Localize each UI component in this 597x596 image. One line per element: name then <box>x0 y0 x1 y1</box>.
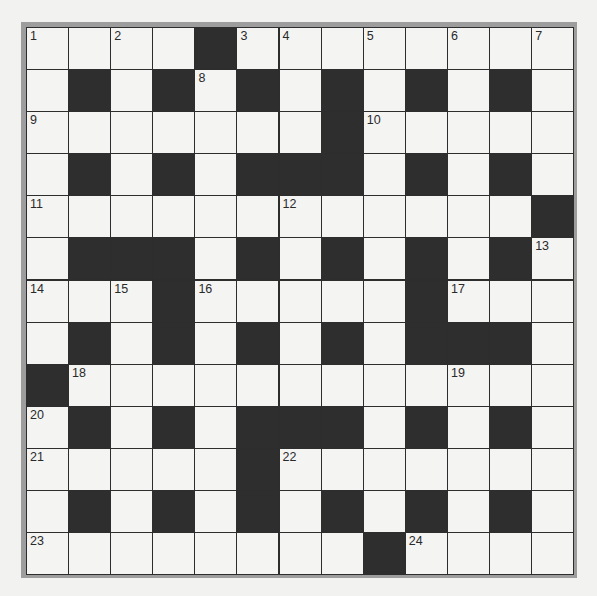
grid-cell-r5-c0[interactable] <box>27 238 68 279</box>
grid-cell-r8-c10[interactable]: 19 <box>448 365 489 406</box>
grid-cell-r10-c10[interactable] <box>448 449 489 490</box>
grid-cell-r10-c6[interactable]: 22 <box>280 449 321 490</box>
grid-cell-r0-c7[interactable] <box>322 28 363 69</box>
grid-cell-r9-c12[interactable] <box>532 407 573 448</box>
grid-cell-r11-c12[interactable] <box>532 491 573 532</box>
grid-cell-r0-c2[interactable]: 2 <box>111 28 152 69</box>
grid-cell-r1-c8[interactable] <box>364 70 405 111</box>
grid-cell-r5-c8[interactable] <box>364 238 405 279</box>
grid-cell-r8-c2[interactable] <box>111 365 152 406</box>
grid-cell-r9-c0[interactable]: 20 <box>27 407 68 448</box>
grid-cell-r9-c8[interactable] <box>364 407 405 448</box>
grid-cell-r0-c8[interactable]: 5 <box>364 28 405 69</box>
grid-cell-r9-c4[interactable] <box>195 407 236 448</box>
grid-cell-r4-c10[interactable] <box>448 196 489 237</box>
grid-cell-r4-c4[interactable] <box>195 196 236 237</box>
grid-cell-r5-c6[interactable] <box>280 238 321 279</box>
grid-cell-r0-c9[interactable] <box>406 28 447 69</box>
grid-cell-r5-c12[interactable]: 13 <box>532 238 573 279</box>
grid-cell-r8-c5[interactable] <box>237 365 278 406</box>
grid-cell-r5-c4[interactable] <box>195 238 236 279</box>
grid-cell-r0-c3[interactable] <box>153 28 194 69</box>
grid-cell-r7-c4[interactable] <box>195 323 236 364</box>
grid-cell-r12-c12[interactable] <box>532 533 573 574</box>
grid-cell-r11-c2[interactable] <box>111 491 152 532</box>
grid-cell-r1-c12[interactable] <box>532 70 573 111</box>
grid-cell-r8-c11[interactable] <box>490 365 531 406</box>
grid-cell-r10-c2[interactable] <box>111 449 152 490</box>
grid-cell-r3-c8[interactable] <box>364 154 405 195</box>
grid-cell-r1-c6[interactable] <box>280 70 321 111</box>
grid-cell-r8-c7[interactable] <box>322 365 363 406</box>
grid-cell-r6-c4[interactable]: 16 <box>195 281 236 322</box>
grid-cell-r2-c2[interactable] <box>111 112 152 153</box>
grid-cell-r10-c4[interactable] <box>195 449 236 490</box>
grid-cell-r2-c10[interactable] <box>448 112 489 153</box>
grid-cell-r6-c12[interactable] <box>532 281 573 322</box>
grid-cell-r4-c11[interactable] <box>490 196 531 237</box>
grid-cell-r8-c6[interactable] <box>280 365 321 406</box>
grid-cell-r10-c7[interactable] <box>322 449 363 490</box>
grid-cell-r10-c11[interactable] <box>490 449 531 490</box>
grid-cell-r6-c5[interactable] <box>237 281 278 322</box>
grid-cell-r12-c7[interactable] <box>322 533 363 574</box>
grid-cell-r0-c6[interactable]: 4 <box>280 28 321 69</box>
grid-cell-r11-c4[interactable] <box>195 491 236 532</box>
grid-cell-r11-c0[interactable] <box>27 491 68 532</box>
grid-cell-r11-c6[interactable] <box>280 491 321 532</box>
grid-cell-r10-c9[interactable] <box>406 449 447 490</box>
grid-cell-r2-c12[interactable] <box>532 112 573 153</box>
grid-cell-r4-c7[interactable] <box>322 196 363 237</box>
grid-cell-r6-c2[interactable]: 15 <box>111 281 152 322</box>
grid-cell-r11-c8[interactable] <box>364 491 405 532</box>
grid-cell-r1-c10[interactable] <box>448 70 489 111</box>
grid-cell-r7-c8[interactable] <box>364 323 405 364</box>
grid-cell-r2-c3[interactable] <box>153 112 194 153</box>
grid-cell-r12-c4[interactable] <box>195 533 236 574</box>
grid-cell-r6-c8[interactable] <box>364 281 405 322</box>
grid-cell-r0-c0[interactable]: 1 <box>27 28 68 69</box>
grid-cell-r4-c0[interactable]: 11 <box>27 196 68 237</box>
grid-cell-r12-c2[interactable] <box>111 533 152 574</box>
grid-cell-r8-c8[interactable] <box>364 365 405 406</box>
grid-cell-r10-c0[interactable]: 21 <box>27 449 68 490</box>
grid-cell-r1-c4[interactable]: 8 <box>195 70 236 111</box>
grid-cell-r8-c9[interactable] <box>406 365 447 406</box>
grid-cell-r4-c5[interactable] <box>237 196 278 237</box>
grid-cell-r8-c4[interactable] <box>195 365 236 406</box>
grid-cell-r0-c5[interactable]: 3 <box>237 28 278 69</box>
grid-cell-r4-c6[interactable]: 12 <box>280 196 321 237</box>
grid-cell-r11-c10[interactable] <box>448 491 489 532</box>
grid-cell-r4-c9[interactable] <box>406 196 447 237</box>
grid-cell-r12-c5[interactable] <box>237 533 278 574</box>
grid-cell-r9-c2[interactable] <box>111 407 152 448</box>
grid-cell-r8-c3[interactable] <box>153 365 194 406</box>
grid-cell-r6-c11[interactable] <box>490 281 531 322</box>
grid-cell-r3-c12[interactable] <box>532 154 573 195</box>
grid-cell-r0-c10[interactable]: 6 <box>448 28 489 69</box>
grid-cell-r1-c2[interactable] <box>111 70 152 111</box>
grid-cell-r10-c1[interactable] <box>69 449 110 490</box>
grid-cell-r5-c10[interactable] <box>448 238 489 279</box>
grid-cell-r10-c3[interactable] <box>153 449 194 490</box>
grid-cell-r7-c12[interactable] <box>532 323 573 364</box>
grid-cell-r8-c12[interactable] <box>532 365 573 406</box>
grid-cell-r4-c3[interactable] <box>153 196 194 237</box>
grid-cell-r2-c9[interactable] <box>406 112 447 153</box>
grid-cell-r2-c1[interactable] <box>69 112 110 153</box>
grid-cell-r12-c10[interactable] <box>448 533 489 574</box>
grid-cell-r10-c8[interactable] <box>364 449 405 490</box>
grid-cell-r8-c1[interactable]: 18 <box>69 365 110 406</box>
grid-cell-r6-c6[interactable] <box>280 281 321 322</box>
grid-cell-r10-c12[interactable] <box>532 449 573 490</box>
grid-cell-r3-c10[interactable] <box>448 154 489 195</box>
grid-cell-r6-c7[interactable] <box>322 281 363 322</box>
grid-cell-r4-c2[interactable] <box>111 196 152 237</box>
grid-cell-r12-c6[interactable] <box>280 533 321 574</box>
grid-cell-r7-c2[interactable] <box>111 323 152 364</box>
grid-cell-r12-c11[interactable] <box>490 533 531 574</box>
grid-cell-r9-c10[interactable] <box>448 407 489 448</box>
grid-cell-r6-c0[interactable]: 14 <box>27 281 68 322</box>
grid-cell-r0-c12[interactable]: 7 <box>532 28 573 69</box>
grid-cell-r1-c0[interactable] <box>27 70 68 111</box>
